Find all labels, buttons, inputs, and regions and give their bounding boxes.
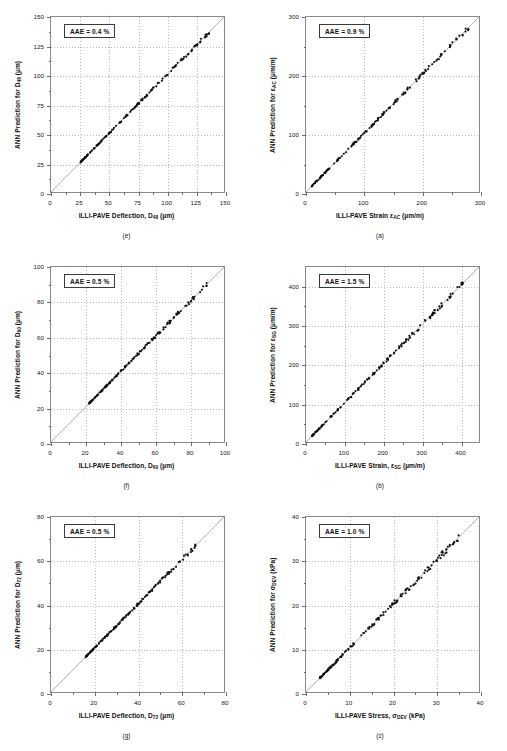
panel-caption: (g) bbox=[0, 732, 253, 739]
x-axis-tick-minor bbox=[403, 442, 404, 445]
y-axis-tick-label: 50 bbox=[20, 131, 44, 138]
x-axis-tick-label: 300 bbox=[475, 199, 486, 206]
x-axis-tick-label: 80 bbox=[221, 699, 228, 706]
x-axis-tick-minor bbox=[328, 692, 329, 695]
x-axis-title: ILLI-PAVE Stress, σDEV (kPa) bbox=[253, 712, 507, 719]
y-axis-tick bbox=[47, 561, 51, 562]
y-axis-tick bbox=[47, 373, 51, 374]
aae-annotation-box: AAE = 1.0 % bbox=[319, 524, 370, 538]
y-axis-tick bbox=[302, 517, 306, 518]
y-axis-tick-minor bbox=[49, 391, 52, 392]
x-axis-tick bbox=[95, 692, 96, 696]
x-axis-tick-minor bbox=[459, 692, 460, 695]
panel-caption: (a) bbox=[253, 232, 507, 239]
aae-annotation-box: AAE = 0.5 % bbox=[64, 274, 115, 288]
y-axis-title: ANN Prediction for D60 (µm) bbox=[14, 310, 21, 398]
x-axis-tick bbox=[139, 192, 140, 196]
y-axis-title: ANN Prediction for εSG (µm/m) bbox=[269, 307, 276, 403]
x-axis-tick-label: 80 bbox=[186, 449, 193, 456]
x-axis-tick-label: 60 bbox=[178, 699, 185, 706]
x-axis-tick-minor bbox=[182, 192, 183, 195]
y-axis-tick-minor bbox=[304, 306, 307, 307]
x-axis-tick-minor bbox=[415, 692, 416, 695]
y-axis-tick bbox=[302, 287, 306, 288]
x-axis-tick-label: 300 bbox=[416, 449, 427, 456]
x-axis-tick bbox=[51, 692, 52, 696]
panel-caption: (e) bbox=[0, 232, 253, 239]
x-axis-tick bbox=[423, 442, 424, 446]
x-axis-tick-minor bbox=[66, 192, 67, 195]
x-axis-tick bbox=[462, 442, 463, 446]
y-axis-tick bbox=[302, 606, 306, 607]
chart-panel-a: 01002003000100200300AAE = 0.9 %ILLI-PAVE… bbox=[253, 0, 507, 250]
y-axis-tick bbox=[302, 561, 306, 562]
panel-caption: (c) bbox=[253, 732, 507, 739]
y-axis-title: ANN Prediction for D48 (µm) bbox=[14, 60, 21, 148]
y-axis-tick-label: 200 bbox=[275, 72, 299, 79]
x-axis-tick-minor bbox=[174, 442, 175, 445]
x-axis-tick bbox=[226, 692, 227, 696]
x-axis-tick-label: 40 bbox=[116, 449, 123, 456]
y-axis-title: ANN Prediction for D72 (µm) bbox=[14, 560, 21, 648]
x-axis-tick bbox=[109, 192, 110, 196]
y-axis-tick bbox=[302, 76, 306, 77]
x-axis-tick-minor bbox=[364, 442, 365, 445]
x-axis-tick-minor bbox=[95, 192, 96, 195]
x-axis-tick bbox=[80, 192, 81, 196]
y-axis-tick-minor bbox=[49, 91, 52, 92]
y-axis-tick bbox=[47, 302, 51, 303]
y-axis-tick-label: 300 bbox=[275, 322, 299, 329]
x-axis-tick-label: 40 bbox=[134, 699, 141, 706]
x-axis-tick-label: 125 bbox=[191, 199, 202, 206]
x-axis-tick-minor bbox=[209, 442, 210, 445]
y-axis-tick-label: 100 bbox=[275, 131, 299, 138]
y-axis-tick-minor bbox=[304, 385, 307, 386]
y-axis-tick-minor bbox=[49, 356, 52, 357]
y-axis-tick bbox=[47, 194, 51, 195]
y-axis-tick-label: 80 bbox=[20, 513, 44, 520]
y-axis-tick-label: 150 bbox=[20, 13, 44, 20]
figure-panel-grid: 02550751001251500255075100125150AAE = 0.… bbox=[0, 0, 507, 751]
y-axis-tick-minor bbox=[304, 539, 307, 540]
chart-panel-g: 020406080020406080AAE = 0.5 %ILLI-PAVE D… bbox=[0, 500, 253, 750]
y-axis-tick-minor bbox=[304, 424, 307, 425]
x-axis-tick-label: 0 bbox=[48, 449, 52, 456]
x-axis-tick-minor bbox=[153, 192, 154, 195]
x-axis-tick-label: 75 bbox=[134, 199, 141, 206]
y-axis-tick-minor bbox=[304, 628, 307, 629]
y-axis-tick-label: 10 bbox=[275, 645, 299, 652]
x-axis-tick-label: 0 bbox=[48, 699, 52, 706]
x-axis-tick bbox=[345, 442, 346, 446]
y-axis-tick bbox=[47, 76, 51, 77]
x-axis-tick-minor bbox=[117, 692, 118, 695]
y-axis-tick bbox=[302, 326, 306, 327]
x-axis-tick-label: 60 bbox=[151, 449, 158, 456]
y-axis-tick-minor bbox=[49, 426, 52, 427]
x-axis-tick bbox=[182, 692, 183, 696]
x-axis-tick bbox=[197, 192, 198, 196]
x-axis-tick-label: 40 bbox=[476, 699, 483, 706]
x-axis-title: ILLI-PAVE Strain, εSG (µm/m) bbox=[253, 462, 507, 469]
x-axis-tick-label: 200 bbox=[416, 199, 427, 206]
y-axis-tick-label: 200 bbox=[275, 361, 299, 368]
data-points bbox=[306, 17, 479, 192]
y-axis-tick-label: 20 bbox=[20, 404, 44, 411]
y-axis-tick-label: 40 bbox=[275, 513, 299, 520]
x-axis-tick bbox=[306, 192, 307, 196]
y-axis-tick-label: 20 bbox=[275, 601, 299, 608]
y-axis-tick-minor bbox=[304, 165, 307, 166]
x-axis-tick-minor bbox=[160, 692, 161, 695]
y-axis-tick bbox=[302, 194, 306, 195]
y-axis-tick-minor bbox=[49, 32, 52, 33]
x-axis-tick bbox=[51, 192, 52, 196]
x-axis-tick-label: 0 bbox=[303, 449, 307, 456]
y-axis-tick-label: 0 bbox=[20, 440, 44, 447]
x-axis-tick-label: 10 bbox=[345, 699, 352, 706]
y-axis-tick bbox=[47, 338, 51, 339]
x-axis-tick bbox=[168, 192, 169, 196]
x-axis-tick bbox=[437, 692, 438, 696]
y-axis-tick-label: 60 bbox=[20, 557, 44, 564]
y-axis-tick-label: 100 bbox=[20, 263, 44, 270]
y-axis-tick-label: 0 bbox=[20, 690, 44, 697]
y-axis-tick-minor bbox=[304, 672, 307, 673]
